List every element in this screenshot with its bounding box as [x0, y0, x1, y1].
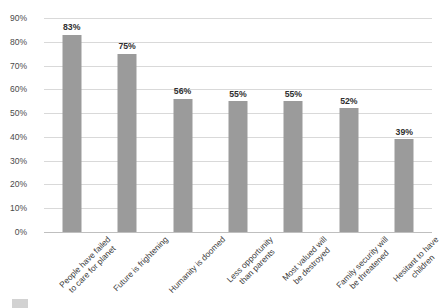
- y-axis-tick-label: 30%: [0, 156, 27, 165]
- bar-slot: 55%: [266, 18, 321, 232]
- bar-slot: 52%: [321, 18, 376, 232]
- bar-value-label: 55%: [285, 90, 302, 99]
- x-label-slot: Family security willbe threatened: [321, 234, 376, 296]
- bar-slot: 39%: [377, 18, 432, 232]
- x-label-slot: Less opportunitythan parents: [210, 234, 265, 296]
- bar-value-label: 55%: [229, 90, 246, 99]
- bar-chart: 0%10%20%30%40%50%60%70%80%90% 83%75%56%5…: [0, 0, 443, 308]
- y-axis-tick-label: 60%: [0, 85, 27, 94]
- x-label-slot: Hesitant to havechildren: [377, 234, 432, 296]
- bar-value-label: 83%: [63, 23, 80, 32]
- x-axis-label: Hesitant to havechildren: [392, 235, 443, 291]
- plot-area: 0%10%20%30%40%50%60%70%80%90% 83%75%56%5…: [44, 18, 432, 232]
- legend-swatch-icon: [12, 299, 28, 308]
- x-label-slot: Future is frightening: [99, 234, 154, 296]
- bar[interactable]: [118, 54, 137, 232]
- y-axis-tick-label: 40%: [0, 133, 27, 142]
- y-axis-tick-label: 0%: [0, 228, 27, 237]
- bar[interactable]: [339, 108, 358, 232]
- bar-value-label: 56%: [174, 87, 191, 96]
- bar[interactable]: [284, 101, 303, 232]
- bar-slot: 56%: [155, 18, 210, 232]
- bar[interactable]: [228, 101, 247, 232]
- bar-value-label: 52%: [340, 97, 357, 106]
- x-label-slot: People have failedto care for planet: [44, 234, 99, 296]
- bar-value-label: 39%: [396, 128, 413, 137]
- bar[interactable]: [62, 35, 81, 232]
- bar-slot: 83%: [44, 18, 99, 232]
- chart-legend: [12, 299, 32, 308]
- y-axis-tick-label: 70%: [0, 61, 27, 70]
- y-axis-tick-label: 50%: [0, 109, 27, 118]
- axis-baseline: [44, 232, 432, 233]
- y-axis-tick-label: 10%: [0, 204, 27, 213]
- y-axis-tick-label: 20%: [0, 180, 27, 189]
- x-label-slot: Most valued willbe destroyed: [266, 234, 321, 296]
- bar[interactable]: [173, 99, 192, 232]
- bar[interactable]: [395, 139, 414, 232]
- bar-value-label: 75%: [118, 42, 135, 51]
- bars-group: 83%75%56%55%55%52%39%: [44, 18, 432, 232]
- y-axis-tick-label: 80%: [0, 38, 27, 47]
- bar-slot: 55%: [210, 18, 265, 232]
- y-axis-tick-label: 90%: [0, 14, 27, 23]
- x-label-slot: Humanity is doomed: [155, 234, 210, 296]
- x-axis-category-labels: People have failedto care for planetFutu…: [44, 234, 432, 296]
- bar-slot: 75%: [99, 18, 154, 232]
